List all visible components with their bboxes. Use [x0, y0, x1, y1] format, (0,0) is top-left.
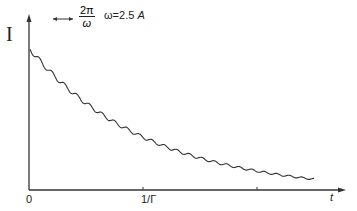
x-tick-gamma: 1/Γ — [141, 194, 156, 205]
y-axis-label: I — [6, 24, 13, 44]
decay-curve — [30, 49, 314, 179]
period-marker-left-arrow-icon — [53, 17, 57, 21]
x-axis-label: t — [330, 192, 333, 203]
period-fraction: 2π ω — [79, 4, 95, 29]
period-numerator: 2π — [79, 4, 95, 17]
x-tick-origin: 0 — [26, 194, 32, 205]
omega-unit: A — [137, 9, 144, 21]
period-denominator: ω — [79, 17, 95, 29]
y-axis-arrow-icon — [27, 14, 32, 22]
omega-annotation: ω=2.5 A — [104, 10, 145, 21]
omega-prefix: ω=2.5 — [104, 9, 137, 21]
period-marker-right-arrow-icon — [69, 17, 73, 21]
chart-canvas — [0, 0, 357, 211]
x-axis-arrow-icon — [338, 188, 346, 193]
